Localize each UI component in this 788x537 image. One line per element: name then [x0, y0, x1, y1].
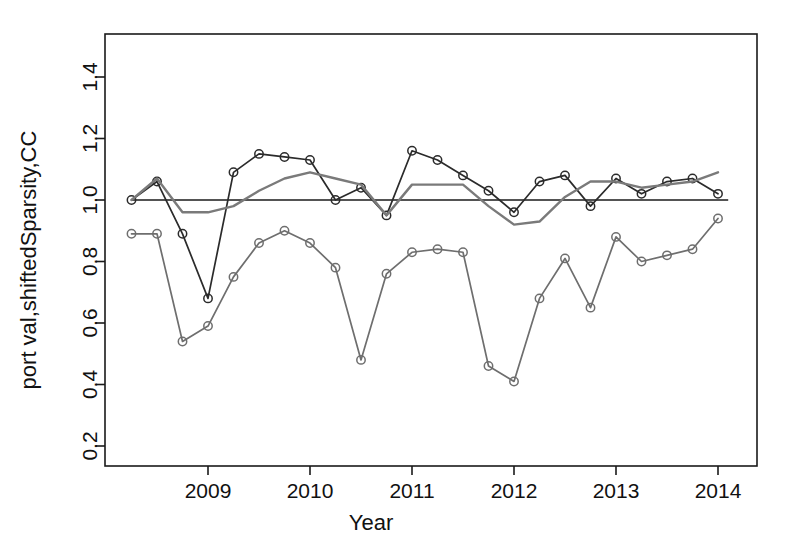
y-tick-label: 0.4: [78, 370, 101, 400]
series-group: [127, 147, 722, 386]
chart-figure: 0.20.40.60.81.01.21.42009201020112012201…: [0, 0, 788, 537]
x-tick-label: 2011: [389, 479, 434, 502]
x-tick-label: 2012: [491, 479, 538, 502]
x-axis-title: Year: [349, 510, 393, 535]
series-line-shiftedsparsity: [132, 172, 719, 224]
x-tick-label: 2009: [185, 479, 232, 502]
axes-group: 0.20.40.60.81.01.21.42009201020112012201…: [78, 34, 758, 502]
x-tick-label: 2010: [287, 479, 334, 502]
axis-labels-group: Yearport val,shiftedSparsity,CC: [16, 130, 393, 535]
x-tick-label: 2014: [695, 479, 742, 502]
y-tick-label: 0.2: [78, 431, 101, 460]
y-tick-label: 1.4: [78, 62, 101, 92]
line-chart-canvas: 0.20.40.60.81.01.21.42009201020112012201…: [0, 0, 788, 537]
y-tick-label: 0.6: [78, 308, 101, 337]
y-tick-label: 0.8: [78, 247, 101, 276]
y-tick-label: 1.2: [78, 124, 101, 153]
series-line-port-val: [132, 151, 719, 299]
y-tick-label: 1.0: [78, 185, 101, 214]
x-tick-label: 2013: [593, 479, 640, 502]
y-axis-title: port val,shiftedSparsity,CC: [16, 130, 41, 389]
